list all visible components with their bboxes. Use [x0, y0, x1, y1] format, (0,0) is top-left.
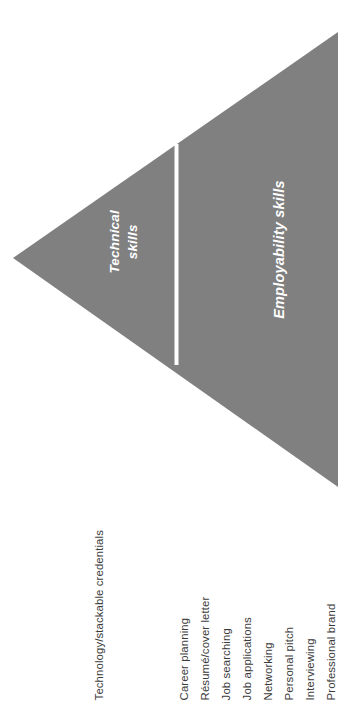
axis-label-networking: Networking: [263, 642, 274, 700]
axis-label-personal-pitch: Personal pitch: [284, 626, 295, 700]
axis-label-job-applications: Job applications: [242, 617, 253, 700]
axis-label-interviewing: Interviewing: [305, 638, 316, 700]
axis-label-resume-cover-letter: Résumé/cover letter: [200, 596, 211, 700]
segment-caption-technical-line2: skills: [125, 224, 140, 259]
segment-caption-technical-line1: Technical: [107, 210, 122, 274]
segment-caption-employability: Employability skills: [270, 170, 289, 330]
funnel-shape: [0, 0, 360, 510]
axis-label-job-searching: Job searching: [221, 628, 232, 700]
axis-label-career-planning: Career planning: [179, 617, 190, 700]
segment-caption-technical: Technicalskills: [106, 192, 142, 292]
axis-label-technology-stackable-credentials: Technology/stackable credentials: [94, 530, 105, 700]
axis-label-professional-brand: Professional brand: [326, 603, 337, 700]
funnel-diagram: Technicalskills Employability skills Tec…: [0, 0, 360, 710]
